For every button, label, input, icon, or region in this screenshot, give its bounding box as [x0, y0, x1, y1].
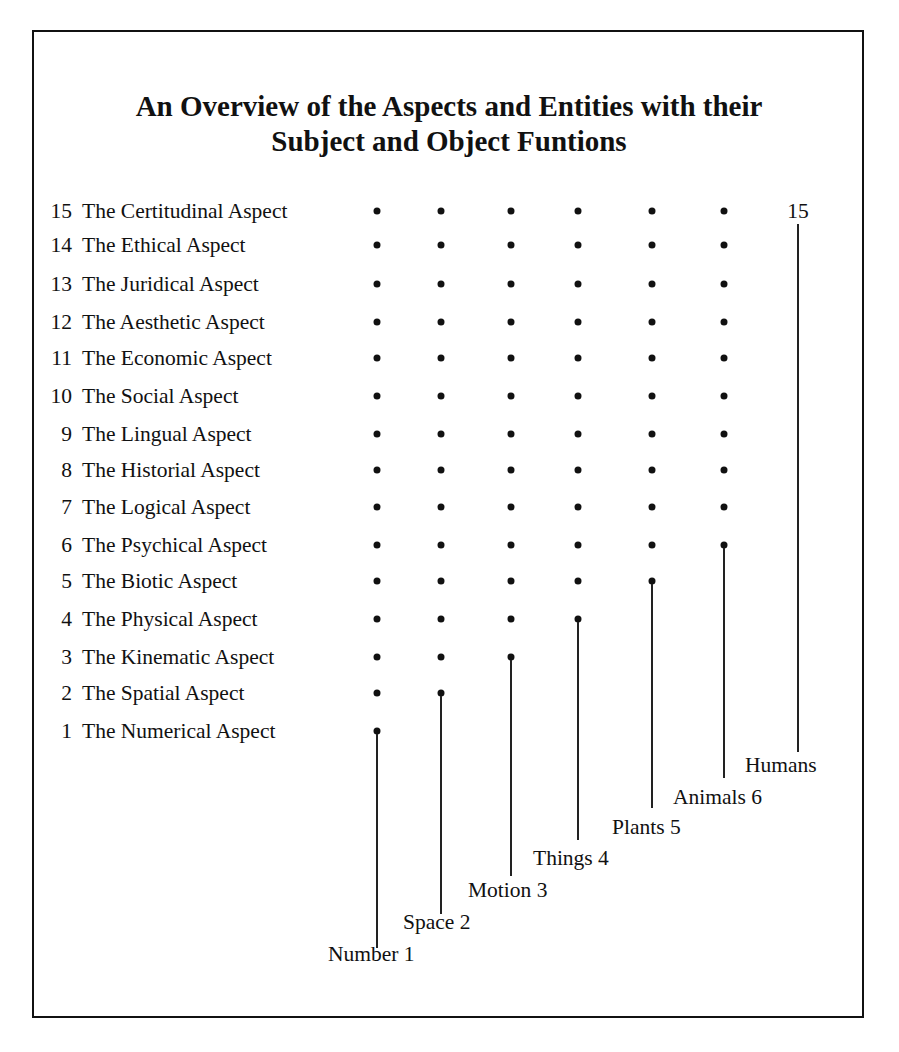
aspect-dot [649, 242, 656, 249]
aspect-dot [438, 542, 445, 549]
aspect-number: 6 [40, 530, 72, 560]
aspect-dot [575, 431, 582, 438]
aspect-dot [374, 654, 381, 661]
aspect-row-14: 14The Ethical Aspect [40, 230, 246, 260]
aspect-dot [438, 504, 445, 511]
aspect-number: 3 [40, 642, 72, 672]
aspect-row-3: 3The Kinematic Aspect [40, 642, 274, 672]
aspect-number: 12 [40, 307, 72, 337]
aspect-number: 10 [40, 381, 72, 411]
aspect-dot [374, 690, 381, 697]
aspect-dot [721, 242, 728, 249]
aspect-dot [721, 281, 728, 288]
aspect-dot [721, 208, 728, 215]
aspect-row-12: 12The Aesthetic Aspect [40, 307, 265, 337]
entity-stem-line [376, 734, 378, 948]
aspect-dot [374, 467, 381, 474]
aspect-dot [575, 578, 582, 585]
aspect-number: 5 [40, 566, 72, 596]
aspect-label: The Aesthetic Aspect [82, 310, 265, 334]
aspect-row-7: 7The Logical Aspect [40, 492, 250, 522]
aspect-row-2: 2The Spatial Aspect [40, 678, 244, 708]
aspect-row-9: 9The Lingual Aspect [40, 419, 252, 449]
aspect-dot [575, 393, 582, 400]
entity-stem-line [723, 548, 725, 778]
aspect-dot [438, 281, 445, 288]
aspect-dot [575, 355, 582, 362]
aspect-dot [575, 281, 582, 288]
aspect-dot [649, 431, 656, 438]
aspect-dot [508, 281, 515, 288]
aspect-label: The Historial Aspect [82, 458, 260, 482]
aspect-dot [374, 431, 381, 438]
aspect-dot [575, 208, 582, 215]
aspect-row-15: 15The Certitudinal Aspect [40, 196, 287, 226]
entity-stem-line [651, 584, 653, 808]
aspect-dot [575, 319, 582, 326]
entity-label-animals: Animals 6 [673, 784, 762, 810]
entity-label-humans: Humans [745, 752, 817, 778]
aspect-number: 14 [40, 230, 72, 260]
aspect-label: The Logical Aspect [82, 495, 250, 519]
aspect-label: The Juridical Aspect [82, 272, 259, 296]
aspect-label: The Ethical Aspect [82, 233, 246, 257]
aspect-number: 11 [40, 343, 72, 373]
aspect-dot [721, 355, 728, 362]
aspect-dot [721, 319, 728, 326]
aspect-dot [508, 319, 515, 326]
aspect-dot [374, 319, 381, 326]
aspect-dot [508, 578, 515, 585]
aspect-dot [721, 504, 728, 511]
entity-label-number: Number 1 [328, 941, 415, 967]
entity-stem-line [510, 660, 512, 876]
aspect-dot [508, 355, 515, 362]
entity-label-motion: Motion 3 [468, 877, 547, 903]
aspect-dot [575, 242, 582, 249]
entity-stem-line [440, 696, 442, 914]
aspect-dot [508, 542, 515, 549]
aspect-dot [649, 393, 656, 400]
aspect-dot [438, 578, 445, 585]
aspect-dot [649, 504, 656, 511]
aspect-dot [508, 467, 515, 474]
aspect-row-10: 10The Social Aspect [40, 381, 238, 411]
aspect-dot [508, 208, 515, 215]
aspect-dot [438, 431, 445, 438]
aspect-dot [508, 393, 515, 400]
aspect-dot [438, 654, 445, 661]
aspect-label: The Numerical Aspect [82, 719, 275, 743]
title-line-1: An Overview of the Aspects and Entities … [32, 89, 866, 124]
aspect-dot [721, 393, 728, 400]
aspect-number: 7 [40, 492, 72, 522]
humans-top-label: 15 [787, 198, 809, 224]
diagram-frame [32, 30, 864, 1018]
aspect-dot [438, 355, 445, 362]
aspect-dot [721, 431, 728, 438]
aspect-dot [374, 242, 381, 249]
aspect-label: The Certitudinal Aspect [82, 199, 287, 223]
aspect-dot [508, 431, 515, 438]
aspect-number: 8 [40, 455, 72, 485]
aspect-dot [438, 208, 445, 215]
aspect-dot [649, 208, 656, 215]
aspect-dot [374, 578, 381, 585]
aspect-dot [508, 242, 515, 249]
aspect-label: The Lingual Aspect [82, 422, 252, 446]
aspect-label: The Biotic Aspect [82, 569, 237, 593]
aspect-number: 1 [40, 716, 72, 746]
aspect-dot [649, 542, 656, 549]
aspect-dot [374, 542, 381, 549]
title-line-2: Subject and Object Funtions [32, 124, 866, 159]
aspect-number: 15 [40, 196, 72, 226]
aspect-dot [721, 467, 728, 474]
aspect-row-11: 11The Economic Aspect [40, 343, 272, 373]
aspect-dot [438, 242, 445, 249]
aspect-dot [649, 467, 656, 474]
aspect-dot [374, 504, 381, 511]
aspect-label: The Psychical Aspect [82, 533, 267, 557]
aspect-dot [438, 616, 445, 623]
aspect-row-4: 4The Physical Aspect [40, 604, 258, 634]
aspect-dot [438, 319, 445, 326]
aspect-dot [438, 467, 445, 474]
aspect-number: 9 [40, 419, 72, 449]
